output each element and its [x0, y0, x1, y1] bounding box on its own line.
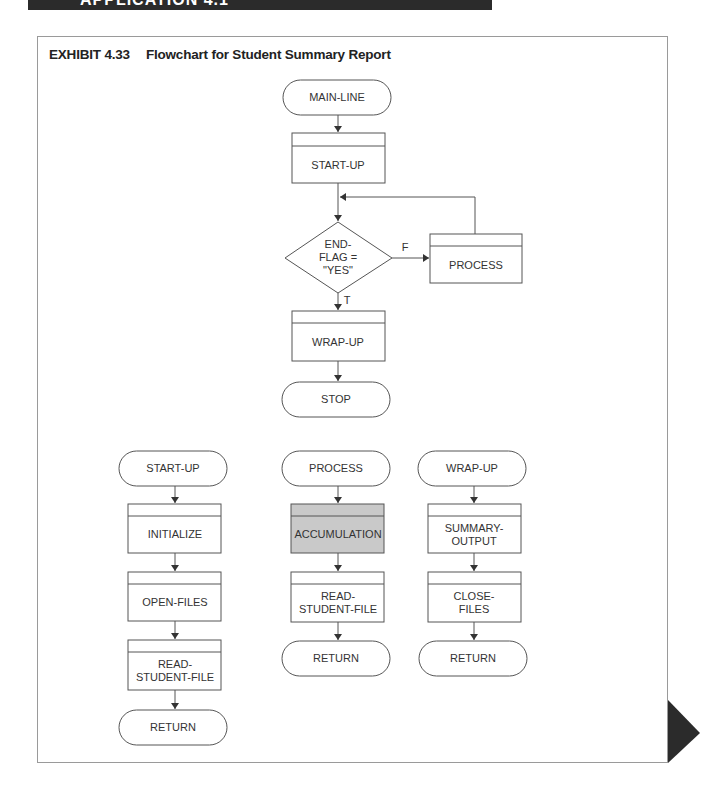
label-read-1b: STUDENT-FILE: [136, 671, 214, 683]
flowchart: MAIN-LINE START-UP END- FLAG = "YES" F T…: [0, 0, 713, 793]
label-wrap-up: WRAP-UP: [312, 336, 364, 348]
label-false-branch: F: [402, 241, 409, 253]
label-read-1a: READ-: [158, 658, 193, 670]
label-decision-3: "YES": [323, 264, 353, 276]
label-read-2b: STUDENT-FILE: [299, 603, 377, 615]
label-true-branch: T: [344, 294, 351, 306]
label-close-a: CLOSE-: [454, 590, 495, 602]
label-decision-2: FLAG =: [319, 251, 357, 263]
label-wrapup-entry: WRAP-UP: [446, 462, 498, 474]
label-summary-a: SUMMARY-: [445, 522, 504, 534]
label-main-line: MAIN-LINE: [309, 91, 365, 103]
label-process-entry: PROCESS: [309, 462, 363, 474]
label-decision-1: END-: [325, 238, 352, 250]
label-stop: STOP: [321, 393, 351, 405]
label-open-files: OPEN-FILES: [142, 596, 207, 608]
label-close-b: FILES: [459, 603, 490, 615]
label-return-3: RETURN: [450, 652, 496, 664]
label-start-up: START-UP: [311, 159, 364, 171]
process-box-start-up: [292, 133, 385, 183]
label-startup-entry: START-UP: [146, 462, 199, 474]
label-return-2: RETURN: [313, 652, 359, 664]
label-return-1: RETURN: [150, 721, 196, 733]
label-initialize: INITIALIZE: [148, 528, 202, 540]
label-summary-b: OUTPUT: [451, 535, 497, 547]
label-read-2a: READ-: [321, 590, 356, 602]
label-process: PROCESS: [449, 259, 503, 271]
page-corner-arrow-icon: [668, 700, 700, 763]
label-accumulation: ACCUMULATION: [294, 528, 381, 540]
